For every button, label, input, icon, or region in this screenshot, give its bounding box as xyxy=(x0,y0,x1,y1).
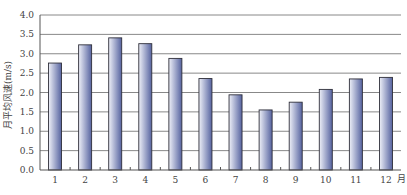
bar-month-2 xyxy=(79,45,92,170)
x-tick-label: 2 xyxy=(82,175,88,185)
bar-month-12 xyxy=(379,77,392,170)
x-tick-label: 6 xyxy=(203,175,209,185)
x-tick-label: 8 xyxy=(263,175,269,185)
x-tick-label: 9 xyxy=(293,175,299,185)
y-tick-label: 0.0 xyxy=(20,165,35,175)
bar-month-9 xyxy=(289,102,302,170)
bar-chart: 0.00.51.01.52.02.53.03.54.0 123456789101… xyxy=(0,0,407,195)
bar-month-6 xyxy=(199,79,212,170)
y-tick-label: 1.0 xyxy=(20,126,35,136)
gridlines xyxy=(40,15,401,151)
y-tick-label: 2.0 xyxy=(20,88,35,98)
y-axis-label: 月平均风速(m/s) xyxy=(2,61,13,129)
x-tick-label: 5 xyxy=(173,175,179,185)
x-tick-label: 10 xyxy=(320,175,332,185)
x-tick-label: 1 xyxy=(52,175,58,185)
y-tick-label: 4.0 xyxy=(20,10,35,20)
y-tick-label: 3.0 xyxy=(20,49,35,59)
y-tick-label: 1.5 xyxy=(20,107,35,117)
bar-month-1 xyxy=(49,63,62,170)
x-axis-label: 月 xyxy=(397,174,406,184)
x-tick-label: 12 xyxy=(380,175,391,185)
bar-month-3 xyxy=(109,38,122,170)
bar-month-8 xyxy=(259,110,272,170)
y-tick-label: 3.5 xyxy=(20,29,35,39)
x-tick-label: 3 xyxy=(112,175,118,185)
x-tick-label: 7 xyxy=(233,175,239,185)
bar-month-10 xyxy=(319,89,332,170)
x-tick-label: 11 xyxy=(350,175,361,185)
x-tick-label: 4 xyxy=(142,175,148,185)
bar-month-5 xyxy=(169,58,182,170)
bar-month-7 xyxy=(229,95,242,170)
bar-month-4 xyxy=(139,44,152,170)
y-tick-label: 2.5 xyxy=(20,68,35,78)
y-tick-label: 0.5 xyxy=(20,146,35,156)
bar-month-11 xyxy=(349,79,362,170)
y-axis-ticks: 0.00.51.01.52.02.53.03.54.0 xyxy=(20,10,35,175)
